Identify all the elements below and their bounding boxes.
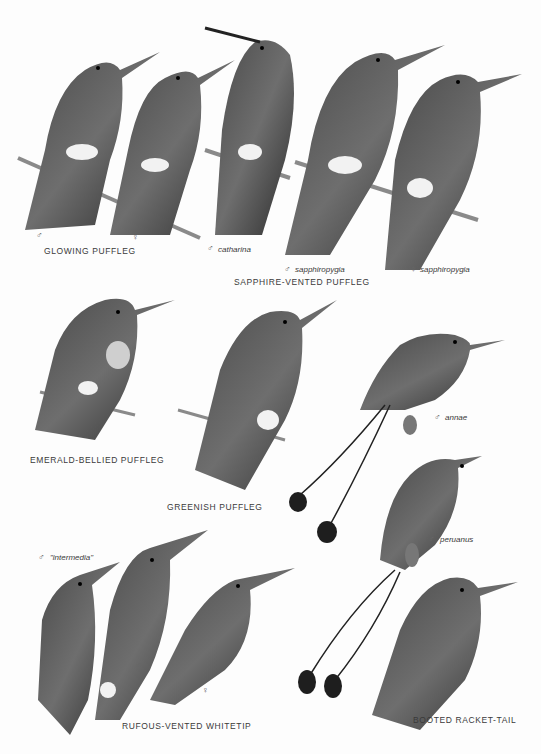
subspecies-label: peruanus [440, 535, 473, 544]
sapphire-vented-catharina [205, 28, 294, 235]
species-label-booted-racket-tail: BOOTED RACKET-TAIL [413, 715, 516, 725]
rufous-vented-whitetip-female [150, 568, 295, 705]
sex-symbol: ♂ [135, 660, 142, 670]
sex-symbol: ♂ [284, 264, 291, 274]
greenish-puffleg [195, 300, 337, 490]
subspecies-label: sapphiropygia [420, 265, 470, 274]
sex-symbol: ♂ [38, 552, 45, 562]
emerald-bellied-puffleg [35, 299, 175, 440]
sex-symbol: ♀ [410, 264, 417, 274]
species-label-rufous-vented-whitetip: RUFOUS-VENTED WHITETIP [122, 721, 251, 731]
sex-symbol: ♀ [426, 683, 433, 693]
sex-symbol: ♀ [202, 685, 209, 695]
species-label-glowing-puffleg: GLOWING PUFFLEG [44, 246, 136, 256]
sex-symbol: ♂ [207, 243, 214, 253]
sex-symbol: ♂ [36, 230, 43, 240]
subspecies-label: annae [445, 413, 467, 422]
glowing-puffleg-female [110, 60, 235, 235]
subspecies-label: catharina [218, 245, 251, 254]
species-label-emerald-bellied-puffleg: EMERALD-BELLIED PUFFLEG [30, 455, 164, 465]
booted-racket-tail-female [372, 577, 518, 730]
species-label-greenish-puffleg: GREENISH PUFFLEG [167, 502, 263, 512]
sex-symbol: ♂ [428, 534, 435, 544]
sex-symbol: ♀ [132, 232, 139, 242]
subspecies-label: "intermedia" [50, 553, 93, 562]
species-label-sapphire-vented-puffleg: SAPPHIRE-VENTED PUFFLEG [234, 277, 370, 287]
sex-symbol: ♂ [434, 412, 441, 422]
illustration-plate: ♂ ♀ GLOWING PUFFLEG ♂ catharina ♂ sapphi… [0, 0, 541, 754]
hummingbird-illustrations [0, 0, 541, 754]
subspecies-label: sapphiropygia [295, 265, 345, 274]
sapphire-vented-sapphiropygia-female [385, 74, 522, 270]
